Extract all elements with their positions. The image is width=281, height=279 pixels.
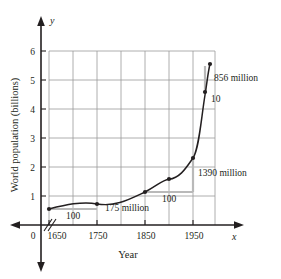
y-tick-label-5: 5 — [30, 76, 35, 86]
population-growth-chart: 1 2 3 4 5 6 0 1650 1750 1850 1950 y x Wo… — [0, 0, 281, 279]
x-tick-label-1850: 1850 — [137, 231, 156, 241]
x-axis-variable-label: x — [231, 231, 237, 242]
x-tick-label-1650: 1650 — [48, 231, 67, 241]
data-point-1950 — [191, 156, 195, 160]
y-axis-title: World population (billions) — [9, 77, 21, 192]
y-tick-label-3: 3 — [30, 134, 35, 144]
y-tick-label-1: 1 — [30, 192, 35, 202]
data-point-1960 — [203, 90, 207, 94]
y-tick-label-2: 2 — [30, 163, 35, 173]
x-tick-label-1750: 1750 — [89, 231, 108, 241]
y-tick-label-6: 6 — [30, 47, 35, 57]
data-point-1900 — [167, 177, 171, 181]
annotation-gain-175-million: 175 million — [105, 203, 149, 213]
data-point-1650 — [47, 207, 51, 211]
data-point-1850 — [143, 190, 147, 194]
annotation-span-100-lower: 100 — [66, 211, 81, 221]
annotation-span-10: 10 — [211, 94, 221, 104]
origin-label: 0 — [31, 231, 36, 241]
x-tick-label-1950: 1950 — [185, 231, 204, 241]
annotation-gain-856-million: 856 million — [214, 73, 258, 83]
y-axis-variable-label: y — [49, 15, 55, 26]
annotation-gain-1390-million: 1390 million — [198, 168, 247, 178]
data-point-1750 — [95, 202, 99, 206]
annotation-span-100-upper: 100 — [162, 194, 177, 204]
x-axis-title: Year — [118, 249, 138, 260]
y-tick-label-4: 4 — [30, 105, 35, 115]
data-point-1970 — [208, 62, 212, 66]
